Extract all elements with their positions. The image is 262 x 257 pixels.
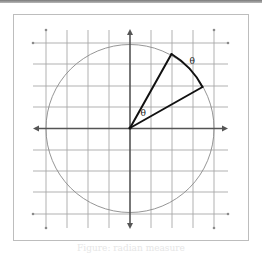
- origin-point: [128, 126, 131, 129]
- angle-label-theta: θ: [141, 108, 146, 118]
- figure-caption: Figure: radian measure: [0, 243, 262, 253]
- unit-circle-diagram: θ θ: [0, 0, 262, 257]
- arc-label-theta: θ: [190, 56, 195, 66]
